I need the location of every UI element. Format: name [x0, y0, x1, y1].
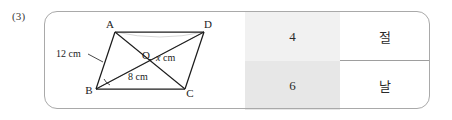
answer-value-row1[interactable]: 4 [245, 12, 340, 61]
answer-syllable-row2[interactable]: 날 [340, 61, 429, 110]
answer-syllable-row1[interactable]: 절 [340, 12, 429, 61]
worksheet-problem-panel: (3) A D [0, 0, 452, 120]
vertex-label-a: A [106, 18, 114, 30]
problem-number-label: (3) [12, 10, 25, 22]
leader-line-12cm [88, 54, 103, 62]
unknown-unit-cm: cm [160, 52, 175, 63]
dimension-label-8cm: 8 cm [128, 71, 148, 82]
center-label-o: O [142, 49, 150, 61]
dimension-label-x-cm: x cm [155, 52, 175, 63]
vertex-label-c: C [186, 87, 193, 99]
vertex-label-b: B [85, 84, 92, 96]
vertex-label-d: D [204, 18, 212, 30]
dimension-label-12cm: 12 cm [56, 48, 81, 59]
answer-row-divider [340, 60, 429, 61]
answer-value-row2[interactable]: 6 [245, 61, 340, 110]
